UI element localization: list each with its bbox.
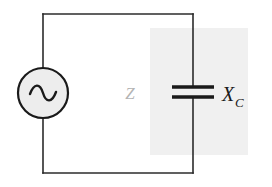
circuit-canvas: Z X C <box>0 0 272 187</box>
circuit-diagram: Z X C <box>0 0 272 187</box>
reactance-label-subscript: C <box>235 95 244 110</box>
ac-voltage-source <box>18 68 68 118</box>
impedance-label: Z <box>125 84 135 103</box>
reactance-label-base: X <box>221 83 235 105</box>
